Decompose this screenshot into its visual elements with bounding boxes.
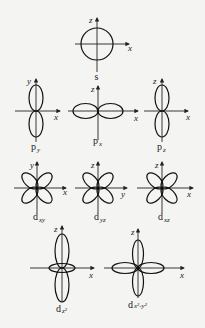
axis-label-z: z bbox=[90, 160, 95, 170]
orbital-pz: z x p z bbox=[144, 76, 190, 154]
orbital-label: s bbox=[95, 71, 99, 82]
axis-label-x: x bbox=[186, 189, 191, 199]
orbital-subscript: x bbox=[98, 140, 103, 148]
orbital-label: d bbox=[56, 303, 61, 314]
orbital-dxy: y x d xy bbox=[14, 160, 67, 224]
axis-label-z: z bbox=[130, 227, 135, 237]
orbital-label: d bbox=[158, 211, 163, 222]
orbital-label: p bbox=[93, 135, 98, 146]
orbital-dx2y2: z x d x²-y² bbox=[104, 227, 184, 310]
orbital-py: y x p y bbox=[15, 76, 60, 154]
axis-label-x: x bbox=[62, 187, 67, 197]
axis-label-z: z bbox=[53, 224, 58, 234]
axis-label-x: x bbox=[88, 270, 93, 280]
axis-label-z: z bbox=[154, 160, 159, 170]
axis-label-y: y bbox=[26, 76, 31, 86]
axis-label-x: x bbox=[53, 112, 58, 122]
orbital-label: p bbox=[157, 141, 162, 152]
orbital-label: p bbox=[31, 141, 36, 152]
orbital-subscript: xz bbox=[163, 216, 170, 224]
axis-label-z: z bbox=[152, 76, 157, 86]
orbital-s: z x s bbox=[75, 15, 132, 82]
axis-label-y: y bbox=[120, 189, 125, 199]
axis-label-x: x bbox=[133, 113, 138, 123]
orbital-subscript: y bbox=[36, 146, 41, 154]
orbital-subscript: xy bbox=[38, 216, 46, 224]
orbital-dxz: z x d xz bbox=[137, 160, 193, 224]
axis-label-x: x bbox=[185, 112, 190, 122]
orbital-dyz: z y d yz bbox=[75, 160, 127, 224]
orbital-diagram: z x s y x p y z x p x z x p z bbox=[0, 0, 205, 328]
orbital-label: d bbox=[33, 211, 38, 222]
axis-label-x: x bbox=[127, 43, 132, 53]
orbital-label: d bbox=[128, 299, 133, 310]
orbital-dz2: z x d z² bbox=[30, 224, 94, 315]
orbital-subscript: yz bbox=[99, 216, 106, 224]
axis-label-x: x bbox=[179, 270, 184, 280]
orbital-subscript: z² bbox=[61, 307, 68, 315]
orbital-subscript: z bbox=[162, 146, 166, 154]
axis-label-z: z bbox=[90, 84, 95, 94]
orbital-px: z x p x bbox=[68, 84, 138, 148]
orbital-label: d bbox=[94, 211, 99, 222]
axis-label-z: z bbox=[88, 15, 93, 25]
axis-label-y: y bbox=[29, 160, 34, 170]
orbital-subscript: x²-y² bbox=[133, 302, 148, 310]
